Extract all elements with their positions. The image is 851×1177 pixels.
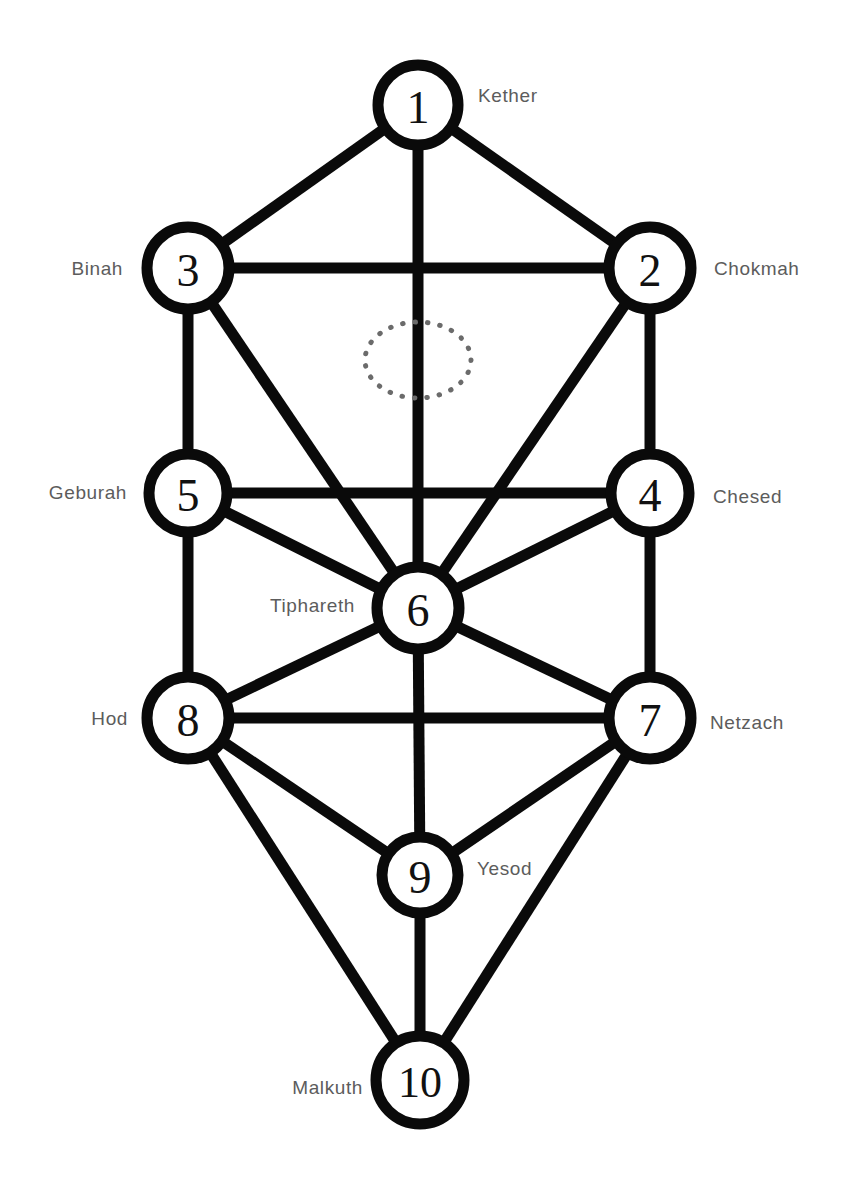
sephirah-number-10: 10 <box>398 1058 442 1107</box>
sephirah-label-binah: Binah <box>71 258 123 279</box>
sephirah-label-geburah: Geburah <box>49 482 127 503</box>
sephirah-number-6: 6 <box>407 585 430 636</box>
sephirah-number-4: 4 <box>639 470 662 521</box>
sephirah-number-2: 2 <box>639 245 662 296</box>
sephirah-label-chokmah: Chokmah <box>714 258 800 279</box>
edge-3-6 <box>188 268 418 608</box>
sephirah-number-8: 8 <box>177 695 200 746</box>
sephirah-label-kether: Kether <box>478 85 538 106</box>
sephirah-number-5: 5 <box>177 470 200 521</box>
sephirah-number-3: 3 <box>177 245 200 296</box>
tree-of-life-canvas: 12345678910 KetherChokmahBinahChesedGebu… <box>0 0 851 1177</box>
sephirah-label-malkuth: Malkuth <box>292 1077 363 1098</box>
sephirah-number-9: 9 <box>409 852 432 903</box>
sephirah-label-hod: Hod <box>91 708 128 729</box>
edge-2-6 <box>418 268 650 608</box>
tree-of-life-diagram: 12345678910 KetherChokmahBinahChesedGebu… <box>0 0 851 1177</box>
sephirah-label-yesod: Yesod <box>477 858 532 879</box>
sephirah-label-netzach: Netzach <box>710 712 784 733</box>
sephirah-label-chesed: Chesed <box>713 486 782 507</box>
sephirah-number-7: 7 <box>639 695 662 746</box>
sephirah-number-1: 1 <box>407 82 430 133</box>
sephirah-label-tiphareth: Tiphareth <box>270 595 355 616</box>
